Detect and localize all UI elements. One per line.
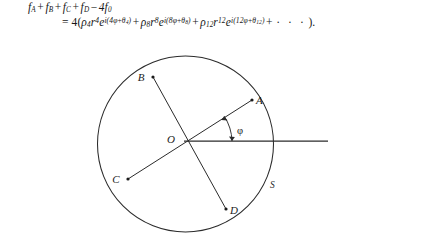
plus-4: + xyxy=(131,16,141,28)
label-angle-phi: φ xyxy=(237,125,243,136)
equation-block: fA+fB+fC+fD−4f0 = 4(ρ4r4ei(4φ+θ4)+ρ8r8ei… xyxy=(0,0,422,46)
point-marker-b xyxy=(151,75,154,78)
equals-sign: = xyxy=(62,16,69,28)
label-b: B xyxy=(138,71,145,83)
angle-arc-arrowhead-bottom xyxy=(229,136,235,141)
term-fa: fA xyxy=(28,1,36,13)
chord-ac xyxy=(128,100,252,179)
point-marker-a xyxy=(250,98,253,101)
ellipsis: · · · xyxy=(274,16,308,28)
series-term-2: ρ8r8ei(8φ+θ8) xyxy=(141,16,191,28)
label-c: C xyxy=(112,173,120,185)
minus-1: − xyxy=(89,1,99,13)
term-fc: fC xyxy=(63,1,71,13)
circle-diagram: A B C D O S φ xyxy=(0,46,422,237)
plus-1: + xyxy=(36,1,46,13)
label-a: A xyxy=(255,94,263,106)
plus-6: + xyxy=(265,16,275,28)
label-d: D xyxy=(229,204,238,216)
term-fd: fD xyxy=(81,1,90,13)
point-marker-c xyxy=(126,177,129,180)
circle-s xyxy=(98,56,274,232)
figure-page: fA+fB+fC+fD−4f0 = 4(ρ4r4ei(4φ+θ4)+ρ8r8ei… xyxy=(0,0,422,237)
angle-arc-arrowhead-top xyxy=(221,116,227,120)
closing-paren-period: ). xyxy=(308,16,315,28)
series-term-1: ρ4r4ei(4φ+θ4) xyxy=(81,16,131,28)
equation-line-2: = 4(ρ4r4ei(4φ+θ4)+ρ8r8ei(8φ+θ8)+ρ12r12ei… xyxy=(62,16,315,29)
label-circle-s: S xyxy=(270,180,275,190)
prefactor: 4( xyxy=(72,16,82,28)
label-origin: O xyxy=(167,133,175,145)
chord-bd xyxy=(153,77,226,209)
point-marker-d xyxy=(224,207,227,210)
plus-5: + xyxy=(191,16,201,28)
equation-line-1: fA+fB+fC+fD−4f0 xyxy=(28,1,112,14)
plus-3: + xyxy=(71,1,81,13)
term-4f0: 4f0 xyxy=(99,1,112,13)
series-term-3: ρ12r12ei(12φ+θ12) xyxy=(200,16,264,28)
plus-2: + xyxy=(53,1,63,13)
